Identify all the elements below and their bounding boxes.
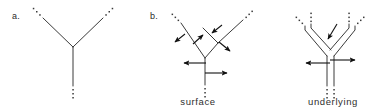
caption-surface: surface xyxy=(166,96,230,107)
ellipsis-dot xyxy=(348,21,350,23)
arrow-apex-down xyxy=(328,24,337,39)
diagram-underlying xyxy=(296,13,365,99)
ellipsis-dot xyxy=(296,17,298,19)
ellipsis-dot xyxy=(248,14,250,16)
underlying-rails xyxy=(305,24,355,86)
diagram-a xyxy=(33,8,113,99)
ellipsis-dot xyxy=(357,23,359,25)
arrow-inner-down-right xyxy=(219,42,230,51)
ellipsis-dot xyxy=(326,89,328,91)
rail-left-outer xyxy=(305,26,327,56)
ellipsis-dot xyxy=(72,93,74,95)
ellipsis-dot xyxy=(310,17,312,19)
branch-outer-right xyxy=(205,43,218,58)
ellipsis-dot xyxy=(112,8,114,10)
surface-ellipses xyxy=(172,11,253,98)
ellipsis-dot xyxy=(302,23,304,25)
branch-inner-right xyxy=(218,20,243,43)
panel-label-b: b. xyxy=(150,11,158,21)
branch-left xyxy=(43,18,73,47)
figure-root: a. b. surface underlying xyxy=(0,0,382,112)
ellipsis-dot xyxy=(299,20,301,22)
ellipsis-dot xyxy=(333,89,335,91)
ellipsis-dot xyxy=(172,14,174,16)
arrow-upper-left-inward xyxy=(193,35,203,44)
ellipsis-dot xyxy=(333,93,335,95)
ellipsis-dot xyxy=(178,20,180,22)
ellipsis-dot xyxy=(310,21,312,23)
ellipsis-dot xyxy=(72,97,74,99)
ellipsis-dot xyxy=(36,11,38,13)
ellipsis-dot xyxy=(204,88,206,90)
arrow-upper-left-outward xyxy=(175,34,185,42)
ellipsis-dot xyxy=(310,13,312,15)
ellipsis-dot xyxy=(348,17,350,19)
ellipsis-dot xyxy=(175,17,177,19)
branch-right xyxy=(73,18,103,47)
ellipsis-dot xyxy=(33,8,35,10)
rail-right-inner xyxy=(330,24,349,50)
diagram-surface xyxy=(172,11,253,98)
diagram-a-branches xyxy=(43,18,103,86)
ellipsis-dot xyxy=(245,17,247,19)
underlying-ellipses xyxy=(296,13,365,99)
caption-underlying: underlying xyxy=(292,96,374,107)
ellipsis-dot xyxy=(326,93,328,95)
arrow-inner-down-left xyxy=(212,25,222,33)
panel-label-a: a. xyxy=(12,11,20,21)
ellipsis-dot xyxy=(348,13,350,15)
ellipsis-dot xyxy=(72,89,74,91)
ellipsis-dot xyxy=(105,14,107,16)
ellipsis-dot xyxy=(109,11,111,13)
surface-branches xyxy=(181,20,243,85)
surface-arrows xyxy=(175,25,230,73)
ellipsis-dot xyxy=(360,20,362,22)
ellipsis-dot xyxy=(251,11,253,13)
ellipsis-dot xyxy=(204,92,206,94)
ellipsis-dot xyxy=(363,17,365,19)
rail-left-inner xyxy=(311,24,331,50)
branch-outer-left xyxy=(181,23,205,58)
ellipsis-dot xyxy=(39,14,41,16)
